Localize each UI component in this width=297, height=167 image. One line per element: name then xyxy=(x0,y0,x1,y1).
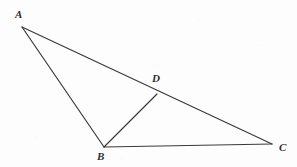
vertex-label-a: A xyxy=(15,9,22,20)
segment-ab xyxy=(22,27,104,147)
geometry-figure: A B C D xyxy=(0,0,297,167)
vertex-label-c: C xyxy=(279,142,286,153)
segment-bd xyxy=(104,94,157,147)
diagram-canvas xyxy=(0,0,297,167)
segment-ac xyxy=(22,27,272,144)
segment-bc xyxy=(104,144,272,147)
vertex-label-b: B xyxy=(97,151,104,162)
vertex-label-d: D xyxy=(152,73,160,84)
